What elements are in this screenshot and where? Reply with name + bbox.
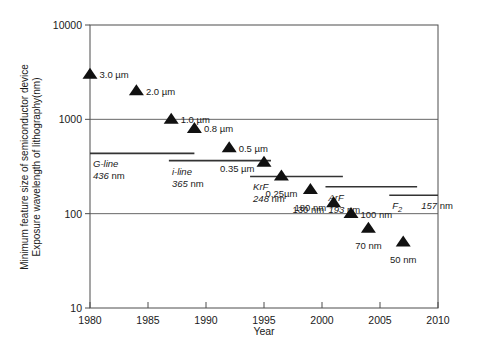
x-tick-label: 2000 [310,314,334,326]
y-tick-label: 10000 [53,19,82,31]
y-axis-ticks: 10000100010010 [53,19,90,314]
wavelength-source-bars: G-line436 nmi-line365 nmKrF248 nmArF193 … [90,153,453,214]
data-point-label: 50 nm [390,254,416,265]
wavelength-value: 365 nm [172,178,204,189]
data-point-label: 0.8 µm [204,123,233,134]
data-marker-triangle [164,113,179,124]
x-axis-title: Year [253,325,275,337]
y-tick-label: 1000 [59,113,83,125]
data-point-label: 3.0 µm [100,69,129,80]
y-tick-label: 10 [70,302,82,314]
x-axis-ticks: 1980198519901995200020052010 [78,302,450,326]
data-point-label: 70 nm [355,240,381,251]
data-point-label: 0.5 µm [239,143,268,154]
wavelength-source-name: F2 [392,200,403,214]
y-axis-title-line2: Exposure wavelength of lithography(nm) [31,78,42,257]
data-marker-triangle [222,141,237,152]
data-point-label: 0.25µm [265,188,297,199]
data-marker-triangle [274,170,289,181]
x-tick-label: 1990 [194,314,218,326]
data-point-label: 130 nm [292,204,324,215]
wavelength-source-name: i-line [172,166,192,177]
chart-canvas: 10000100010010 1980198519901995200020052… [0,0,478,349]
data-marker-triangle [129,84,144,95]
lithography-chart-figure: 10000100010010 1980198519901995200020052… [0,0,478,349]
y-tick-label: 100 [64,208,82,220]
x-tick-label: 1980 [78,314,102,326]
data-marker-triangle [303,183,318,194]
data-point-label: 2.0 µm [146,86,175,97]
x-tick-label: 2005 [368,314,392,326]
data-markers: 3.0 µm2.0 µm1.0 µm0.8 µm0.5 µm0.35 µm0.2… [83,68,417,265]
data-point-label: 100 nm [361,209,393,220]
y-axis-title-line1: Minimum feature size of semiconductor de… [19,64,30,270]
x-tick-label: 2010 [426,314,450,326]
wavelength-value: 436 nm [93,170,125,181]
x-tick-label: 1985 [136,314,160,326]
wavelength-source-name: G-line [93,158,118,169]
data-marker-triangle [361,222,376,233]
data-marker-triangle [83,68,98,79]
data-point-label: 0.35 µm [220,163,255,174]
wavelength-value: 157 nm [421,200,453,211]
data-marker-triangle [396,235,411,246]
